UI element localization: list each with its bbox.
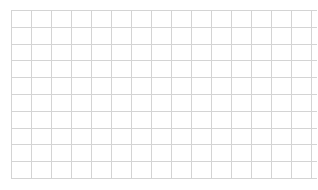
grid-cell[interactable] (172, 94, 192, 111)
grid-cell[interactable] (232, 145, 252, 162)
grid-cell[interactable] (172, 27, 192, 44)
grid-cell[interactable] (172, 44, 192, 61)
grid-cell[interactable] (232, 27, 252, 44)
grid-cell[interactable] (72, 78, 92, 95)
grid-cell[interactable] (32, 61, 52, 78)
grid-cell[interactable] (52, 94, 72, 111)
empty-grid[interactable] (11, 10, 317, 179)
grid-cell[interactable] (92, 128, 112, 145)
grid-cell[interactable] (52, 162, 72, 179)
grid-cell[interactable] (272, 78, 292, 95)
grid-cell[interactable] (112, 162, 132, 179)
grid-cell[interactable] (192, 145, 212, 162)
grid-cell[interactable] (212, 162, 232, 179)
grid-cell[interactable] (292, 78, 312, 95)
grid-cell[interactable] (172, 145, 192, 162)
grid-cell[interactable] (252, 61, 272, 78)
grid-cell[interactable] (152, 162, 172, 179)
grid-cell[interactable] (312, 94, 318, 111)
grid-cell[interactable] (12, 78, 32, 95)
grid-cell[interactable] (272, 11, 292, 28)
grid-cell[interactable] (312, 27, 318, 44)
grid-cell[interactable] (92, 111, 112, 128)
grid-cell[interactable] (232, 128, 252, 145)
grid-cell[interactable] (52, 11, 72, 28)
grid-cell[interactable] (212, 78, 232, 95)
grid-cell[interactable] (272, 111, 292, 128)
grid-cell[interactable] (112, 111, 132, 128)
grid-cell[interactable] (292, 94, 312, 111)
grid-cell[interactable] (232, 44, 252, 61)
grid-cell[interactable] (152, 11, 172, 28)
grid-cell[interactable] (12, 27, 32, 44)
grid-cell[interactable] (12, 111, 32, 128)
grid-cell[interactable] (312, 145, 318, 162)
grid-cell[interactable] (92, 145, 112, 162)
grid-cell[interactable] (112, 94, 132, 111)
grid-cell[interactable] (172, 61, 192, 78)
grid-cell[interactable] (112, 128, 132, 145)
grid-cell[interactable] (32, 128, 52, 145)
grid-cell[interactable] (192, 27, 212, 44)
grid-cell[interactable] (152, 145, 172, 162)
grid-cell[interactable] (312, 128, 318, 145)
grid-cell[interactable] (132, 78, 152, 95)
grid-cell[interactable] (172, 111, 192, 128)
grid-cell[interactable] (152, 61, 172, 78)
grid-cell[interactable] (52, 27, 72, 44)
grid-cell[interactable] (252, 128, 272, 145)
grid-cell[interactable] (312, 78, 318, 95)
grid-cell[interactable] (12, 11, 32, 28)
grid-cell[interactable] (212, 128, 232, 145)
grid-cell[interactable] (132, 44, 152, 61)
grid-cell[interactable] (292, 145, 312, 162)
grid-cell[interactable] (192, 111, 212, 128)
grid-cell[interactable] (92, 94, 112, 111)
grid-cell[interactable] (212, 61, 232, 78)
grid-cell[interactable] (52, 145, 72, 162)
grid-cell[interactable] (112, 44, 132, 61)
grid-cell[interactable] (132, 162, 152, 179)
grid-cell[interactable] (252, 94, 272, 111)
grid-cell[interactable] (72, 61, 92, 78)
grid-cell[interactable] (192, 61, 212, 78)
grid-cell[interactable] (12, 145, 32, 162)
grid-cell[interactable] (232, 94, 252, 111)
grid-cell[interactable] (272, 128, 292, 145)
grid-cell[interactable] (232, 78, 252, 95)
grid-cell[interactable] (32, 145, 52, 162)
grid-cell[interactable] (32, 27, 52, 44)
grid-cell[interactable] (232, 111, 252, 128)
grid-cell[interactable] (152, 44, 172, 61)
grid-cell[interactable] (52, 61, 72, 78)
grid-cell[interactable] (312, 11, 318, 28)
grid-cell[interactable] (72, 27, 92, 44)
grid-cell[interactable] (312, 44, 318, 61)
grid-cell[interactable] (32, 78, 52, 95)
grid-cell[interactable] (132, 94, 152, 111)
grid-cell[interactable] (32, 162, 52, 179)
grid-cell[interactable] (212, 94, 232, 111)
grid-cell[interactable] (72, 111, 92, 128)
grid-cell[interactable] (192, 162, 212, 179)
grid-cell[interactable] (132, 128, 152, 145)
grid-cell[interactable] (252, 44, 272, 61)
grid-cell[interactable] (292, 128, 312, 145)
grid-cell[interactable] (252, 11, 272, 28)
grid-cell[interactable] (232, 162, 252, 179)
grid-cell[interactable] (312, 162, 318, 179)
grid-cell[interactable] (172, 162, 192, 179)
grid-cell[interactable] (192, 94, 212, 111)
grid-cell[interactable] (292, 11, 312, 28)
grid-cell[interactable] (172, 11, 192, 28)
grid-cell[interactable] (232, 11, 252, 28)
grid-cell[interactable] (132, 61, 152, 78)
grid-cell[interactable] (92, 44, 112, 61)
grid-cell[interactable] (252, 111, 272, 128)
grid-cell[interactable] (112, 11, 132, 28)
grid-cell[interactable] (212, 44, 232, 61)
grid-cell[interactable] (72, 94, 92, 111)
grid-cell[interactable] (52, 44, 72, 61)
grid-cell[interactable] (132, 145, 152, 162)
grid-cell[interactable] (152, 128, 172, 145)
